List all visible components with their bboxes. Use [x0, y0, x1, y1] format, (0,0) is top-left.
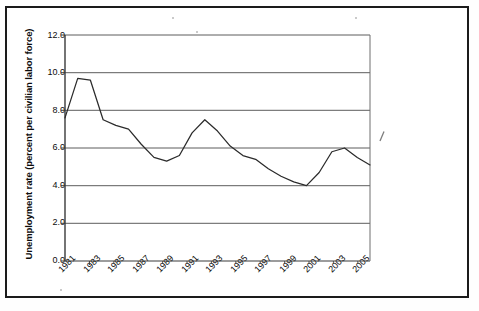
scan-speck-2: [172, 17, 174, 19]
chart-figure: Unemployment rate (percent per civilian …: [0, 0, 479, 311]
scan-speck-3: [355, 17, 357, 19]
plot-tick-marks: [61, 35, 358, 265]
scan-speck-1: [196, 31, 198, 33]
data-series-unemployment-rate: [65, 78, 370, 185]
scan-speck-4: [60, 289, 62, 291]
plot-gridlines: [65, 35, 370, 223]
chart-plot: [0, 0, 479, 311]
scan-artifact: [379, 128, 385, 139]
